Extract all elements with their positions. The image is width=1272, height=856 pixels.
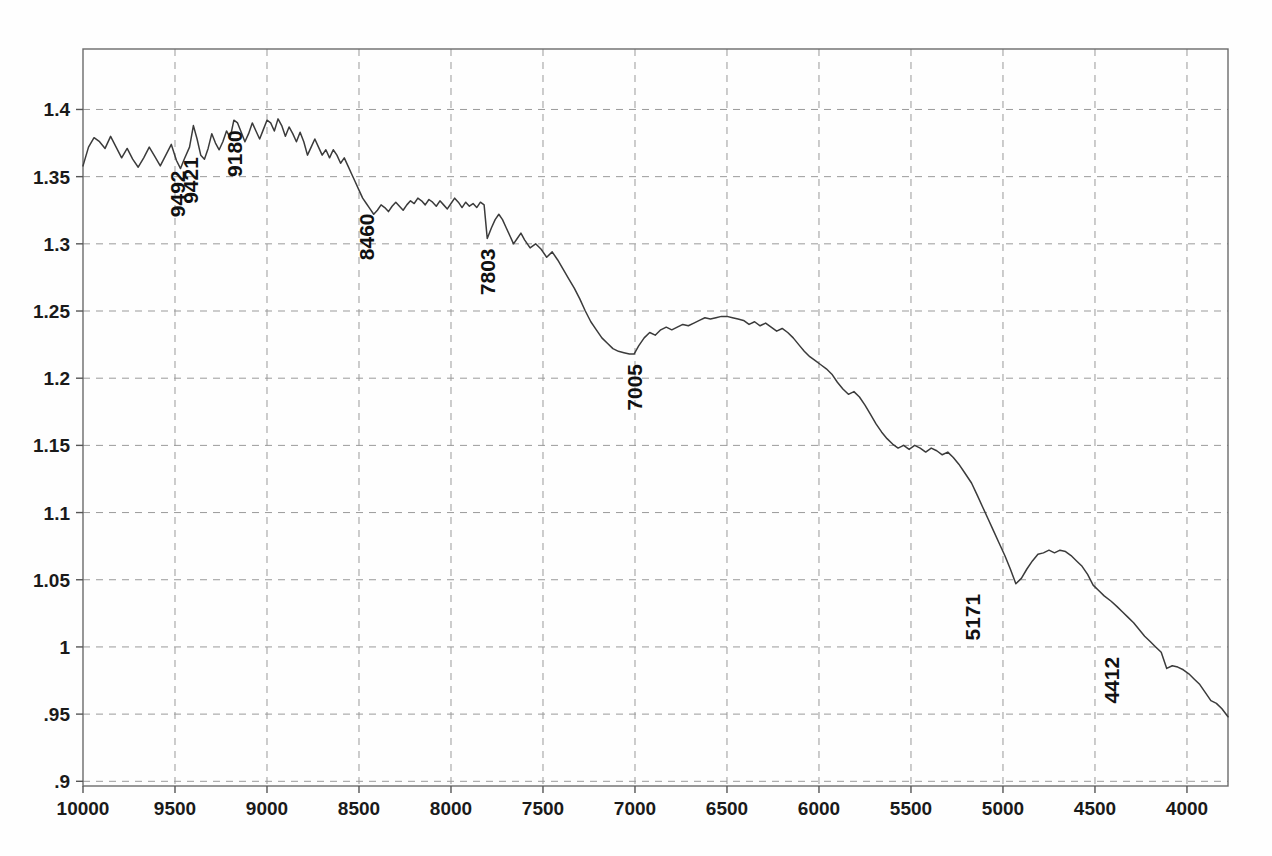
y-tick-label: 1.4 [44,99,71,120]
y-tick-label: 1.15 [33,435,70,456]
peak-label: 9421 [179,157,202,204]
plot-frame [83,49,1228,786]
peak-label: 7803 [476,249,499,296]
y-tick-label: 1.3 [44,234,70,255]
chart-canvas: 1.41.351.31.251.21.151.11.051.95.9 10000… [0,0,1272,856]
x-tick-label: 5500 [890,798,932,819]
x-tick-label: 4000 [1166,798,1208,819]
peak-label: 7005 [623,364,646,411]
x-tick-label: 9500 [154,798,196,819]
peak-label: 8460 [355,214,378,261]
y-tick-label: 1.2 [44,368,70,389]
y-tick-label: .9 [54,771,70,792]
axis-ticks [76,109,1187,793]
y-tick-label: .95 [44,704,71,725]
grid-lines [83,49,1228,786]
y-axis-labels: 1.41.351.31.251.21.151.11.051.95.9 [33,99,70,792]
x-tick-label: 7000 [614,798,656,819]
x-tick-label: 4500 [1074,798,1116,819]
y-tick-label: 1.35 [33,167,70,188]
y-tick-label: 1.1 [44,503,71,524]
peak-label: 4412 [1100,657,1123,704]
peak-label: 9180 [223,130,246,177]
x-tick-label: 6000 [798,798,840,819]
peak-label: 5171 [961,593,984,640]
peak-annotations: 94929421918084607803700551714412 [166,130,1124,703]
y-tick-label: 1.25 [33,301,70,322]
x-tick-label: 8000 [430,798,472,819]
y-tick-label: 1.05 [33,570,70,591]
x-tick-label: 7500 [522,798,564,819]
y-tick-label: 1 [59,637,70,658]
x-axis-labels: 1000095009000850080007500700065006000550… [57,798,1209,819]
x-tick-label: 9000 [246,798,288,819]
spectrum-plot: 1.41.351.31.251.21.151.11.051.95.9 10000… [0,0,1272,856]
x-tick-label: 6500 [706,798,748,819]
x-tick-label: 8500 [338,798,380,819]
spectrum-trace [83,119,1228,717]
x-tick-label: 5000 [982,798,1024,819]
x-tick-label: 10000 [57,798,110,819]
